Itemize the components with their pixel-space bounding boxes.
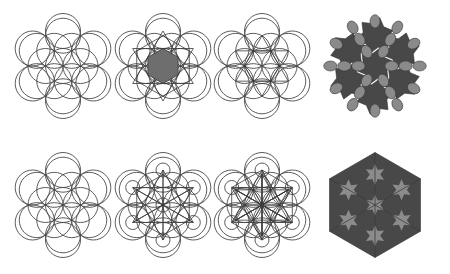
panel-circle-grid-bottom-left [15, 153, 111, 258]
panel-circle-grid-top-left [15, 14, 111, 119]
panel-petal-tiling [324, 15, 427, 118]
construction-diagram [0, 0, 450, 274]
panel-star-tiling [330, 153, 421, 258]
panel-circle-grid-top-third [214, 14, 310, 119]
panel-hexagon-construction [115, 14, 211, 119]
panel-small-circles-construction [115, 153, 211, 258]
panel-dense-line-construction [214, 153, 310, 258]
